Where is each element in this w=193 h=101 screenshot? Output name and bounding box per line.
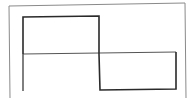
negative-pulse bbox=[99, 52, 176, 90]
square-wave-diagram bbox=[0, 0, 193, 101]
diagram-canvas bbox=[0, 0, 193, 101]
positive-pulse bbox=[23, 16, 99, 54]
